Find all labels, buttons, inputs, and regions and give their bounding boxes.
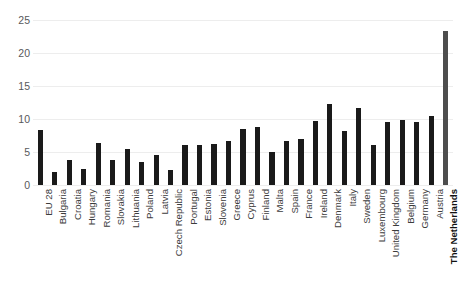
bar-slot xyxy=(424,20,438,185)
y-tick-label-0: 0 xyxy=(4,180,30,191)
bar-slot xyxy=(308,20,322,185)
bar-luxembourg xyxy=(371,145,376,185)
bar-slot xyxy=(250,20,264,185)
gridline-0 xyxy=(33,185,453,186)
bar-italy xyxy=(342,131,347,185)
bar-lithuania xyxy=(125,149,130,185)
bar-austria xyxy=(429,116,434,185)
bar-slot xyxy=(439,20,453,185)
x-label-slot: Denmark xyxy=(323,187,337,292)
bar-slot xyxy=(352,20,366,185)
x-label-slot: EU 28 xyxy=(33,187,47,292)
y-tick-label-10: 10 xyxy=(4,114,30,125)
bar-slot xyxy=(279,20,293,185)
bar-slot xyxy=(76,20,90,185)
bar-slot xyxy=(395,20,409,185)
bar-germany xyxy=(414,122,419,185)
y-tick-label-20: 20 xyxy=(4,48,30,59)
bar-slot xyxy=(410,20,424,185)
bar-malta xyxy=(269,152,274,185)
bar-portugal xyxy=(182,145,187,185)
bar-slot xyxy=(366,20,380,185)
bar-slot xyxy=(163,20,177,185)
bar-the-netherlands xyxy=(443,31,448,185)
bar-bulgaria xyxy=(52,172,57,185)
bar-ireland xyxy=(313,121,318,185)
bar-sweden xyxy=(356,108,361,185)
bar-hungary xyxy=(81,169,86,186)
x-label-slot: Portugal xyxy=(178,187,192,292)
bar-slot xyxy=(221,20,235,185)
x-label-slot: France xyxy=(294,187,308,292)
bar-slot xyxy=(337,20,351,185)
bar-eu-28 xyxy=(38,130,43,185)
bar-slovakia xyxy=(110,160,115,185)
x-label-slot: Germany xyxy=(410,187,424,292)
x-label-slot: Slovakia xyxy=(105,187,119,292)
x-label-slot: Czech Republic xyxy=(163,187,177,292)
x-label-slot: Ireland xyxy=(308,187,322,292)
x-label-slot: Romania xyxy=(91,187,105,292)
y-tick-label-25: 25 xyxy=(4,15,30,26)
y-axis: 0510152025 xyxy=(0,20,30,185)
bar-slot xyxy=(149,20,163,185)
x-label-slot: Spain xyxy=(279,187,293,292)
bar-slot xyxy=(294,20,308,185)
bar-slot xyxy=(33,20,47,185)
bar-spain xyxy=(284,141,289,185)
bar-france xyxy=(298,139,303,185)
bar-slot xyxy=(120,20,134,185)
x-tick-label-the-netherlands: The Netherlands xyxy=(449,189,459,264)
bar-slot xyxy=(265,20,279,185)
bar-finland xyxy=(255,127,260,185)
bar-cyprus xyxy=(240,129,245,185)
x-label-slot: Malta xyxy=(265,187,279,292)
bar-slot xyxy=(47,20,61,185)
bar-slot xyxy=(207,20,221,185)
bar-slot xyxy=(62,20,76,185)
bar-croatia xyxy=(67,160,72,185)
x-label-slot: Sweden xyxy=(352,187,366,292)
x-label-slot: Estonia xyxy=(192,187,206,292)
bar-slot xyxy=(91,20,105,185)
x-label-slot: Slovenia xyxy=(207,187,221,292)
bar-slot xyxy=(134,20,148,185)
x-label-slot: Austria xyxy=(424,187,438,292)
bar-latvia xyxy=(154,155,159,185)
y-tick-label-15: 15 xyxy=(4,81,30,92)
bar-slovenia xyxy=(211,144,216,185)
x-label-slot: Lithuania xyxy=(120,187,134,292)
x-label-slot: Hungary xyxy=(76,187,90,292)
bar-belgium xyxy=(400,120,405,185)
bar-greece xyxy=(226,141,231,185)
y-tick-label-5: 5 xyxy=(4,147,30,158)
bars-container xyxy=(33,20,453,185)
bar-slot xyxy=(178,20,192,185)
x-label-slot: Bulgaria xyxy=(47,187,61,292)
x-label-slot: United Kingdom xyxy=(381,187,395,292)
bar-slot xyxy=(381,20,395,185)
bar-czech-republic xyxy=(168,170,173,185)
x-label-slot: Belgium xyxy=(395,187,409,292)
x-label-slot: Finland xyxy=(250,187,264,292)
x-label-slot: Greece xyxy=(221,187,235,292)
bar-slot xyxy=(105,20,119,185)
bar-slot xyxy=(192,20,206,185)
x-label-slot: Italy xyxy=(337,187,351,292)
bar-united-kingdom xyxy=(385,122,390,185)
x-label-slot: Croatia xyxy=(62,187,76,292)
bar-slot xyxy=(323,20,337,185)
x-label-slot: The Netherlands xyxy=(439,187,453,292)
bar-poland xyxy=(139,162,144,185)
x-label-slot: Latvia xyxy=(149,187,163,292)
bar-denmark xyxy=(327,104,332,185)
bar-slot xyxy=(236,20,250,185)
bar-estonia xyxy=(197,145,202,185)
x-label-slot: Cyprus xyxy=(236,187,250,292)
x-label-slot: Luxembourg xyxy=(366,187,380,292)
x-label-slot: Poland xyxy=(134,187,148,292)
bar-romania xyxy=(96,143,101,185)
x-axis: EU 28BulgariaCroatiaHungaryRomaniaSlovak… xyxy=(33,187,453,292)
